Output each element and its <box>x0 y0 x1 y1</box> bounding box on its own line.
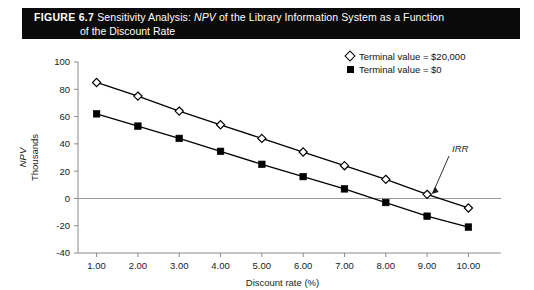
data-point-open-diamond <box>216 121 224 129</box>
chart-annotations: IRR <box>432 143 469 194</box>
figure-caption-npv: NPV <box>194 11 216 23</box>
chart-series-group <box>92 78 472 230</box>
data-point-filled-square <box>176 135 183 142</box>
data-point-open-diamond <box>464 204 472 212</box>
x-tick-label: 4.00 <box>211 260 230 271</box>
y-tick-label: 100 <box>54 56 70 67</box>
data-point-open-diamond <box>382 175 390 183</box>
series-line <box>97 82 469 208</box>
chart-axis-titles: Discount rate (%)NPVThousands <box>17 134 319 288</box>
x-tick-label: 6.00 <box>294 260 313 271</box>
data-point-filled-square <box>259 161 266 168</box>
y-tick-label: 0 <box>65 193 70 204</box>
x-tick-label: 7.00 <box>335 260 354 271</box>
chart-axes <box>74 62 501 257</box>
data-point-filled-square <box>424 213 431 220</box>
chart-plot-area: -40-200204060801001.002.003.004.005.006.… <box>0 40 534 290</box>
figure-caption-line-2: of the Discount Rate <box>80 25 510 39</box>
figure-caption-pre: Sensitivity Analysis: <box>97 11 191 23</box>
y-axis-title-thousands: Thousands <box>29 134 40 181</box>
data-point-open-diamond <box>299 148 307 156</box>
data-point-filled-square <box>300 173 307 180</box>
chart-tick-labels: -40-200204060801001.002.003.004.005.006.… <box>54 56 480 271</box>
data-point-open-diamond <box>134 92 142 100</box>
series-2 <box>93 111 471 231</box>
series-1 <box>92 78 472 212</box>
y-tick-label: -40 <box>56 247 70 258</box>
irr-annotation-arrowhead-icon <box>432 187 439 194</box>
data-point-open-diamond <box>423 190 431 198</box>
y-tick-label: 40 <box>59 138 70 149</box>
y-tick-label: 60 <box>59 111 70 122</box>
figure-caption-line-1: FIGURE 6.7 Sensitivity Analysis: NPV of … <box>34 11 510 25</box>
x-tick-label: 10.00 <box>457 260 481 271</box>
y-tick-label: -20 <box>56 220 70 231</box>
y-axis-title-npv: NPV <box>17 146 28 167</box>
irr-annotation-arrow-line <box>433 156 449 192</box>
data-point-filled-square <box>217 148 224 155</box>
y-tick-label: 20 <box>59 166 70 177</box>
x-tick-label: 9.00 <box>418 260 437 271</box>
data-point-filled-square <box>93 111 100 118</box>
x-tick-label: 3.00 <box>170 260 189 271</box>
data-point-open-diamond <box>92 78 100 86</box>
data-point-open-diamond <box>258 134 266 142</box>
chart-svg: -40-200204060801001.002.003.004.005.006.… <box>0 40 534 290</box>
figure-number: FIGURE 6.7 <box>34 11 94 23</box>
data-point-filled-square <box>341 186 348 193</box>
data-point-filled-square <box>135 123 142 130</box>
data-point-filled-square <box>382 199 389 206</box>
data-point-filled-square <box>465 224 472 231</box>
x-tick-label: 2.00 <box>129 260 148 271</box>
figure-caption-bar: FIGURE 6.7 Sensitivity Analysis: NPV of … <box>22 8 520 39</box>
x-axis-title: Discount rate (%) <box>246 277 319 288</box>
irr-annotation-label: IRR <box>452 143 469 154</box>
y-tick-label: 80 <box>59 84 70 95</box>
x-tick-label: 1.00 <box>87 260 106 271</box>
series-line <box>97 114 469 227</box>
figure-caption-post: of the Library Information System as a F… <box>219 11 444 23</box>
x-tick-label: 8.00 <box>377 260 396 271</box>
x-tick-label: 5.00 <box>253 260 272 271</box>
data-point-open-diamond <box>175 107 183 115</box>
data-point-open-diamond <box>340 162 348 170</box>
